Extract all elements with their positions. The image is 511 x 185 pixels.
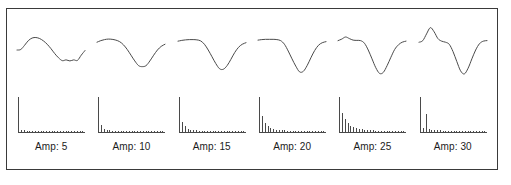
panel-label-amp-10: Amp: 10	[91, 136, 171, 153]
panel-amp-5: Amp: 5	[11, 9, 91, 169]
panel-amp-20: Amp: 20	[252, 9, 332, 169]
waveform-svg-amp-25	[335, 20, 409, 80]
spectrum-plot-amp-30	[413, 91, 493, 136]
waveform-trace	[338, 37, 406, 74]
waveform-plot-amp-15	[172, 9, 252, 91]
spectrum-plot-amp-15	[172, 91, 252, 136]
spectrum-plot-amp-25	[332, 91, 412, 136]
panel-amp-25: Amp: 25	[332, 9, 412, 169]
waveform-trace	[97, 39, 165, 67]
waveform-svg-amp-30	[416, 20, 490, 80]
panel-label-amp-20: Amp: 20	[252, 136, 332, 153]
waveform-trace	[17, 37, 85, 60]
panel-label-amp-15: Amp: 15	[172, 136, 252, 153]
waveform-svg-amp-15	[175, 20, 249, 80]
spectrum-svg-amp-25	[335, 94, 409, 136]
panel-label-amp-5: Amp: 5	[11, 136, 91, 153]
panel-label-amp-25: Amp: 25	[332, 136, 412, 153]
waveform-plot-amp-25	[332, 9, 412, 91]
spectrum-svg-amp-30	[416, 94, 490, 136]
panel-grid: Amp: 5 Amp: 10 Amp: 15	[7, 9, 497, 169]
panel-amp-30: Amp: 30	[413, 9, 493, 169]
waveform-plot-amp-20	[252, 9, 332, 91]
spectrum-plot-amp-10	[91, 91, 171, 136]
spectrum-svg-amp-15	[175, 94, 249, 136]
waveform-trace	[419, 28, 487, 74]
waveform-svg-amp-5	[14, 20, 88, 80]
spectrum-svg-amp-10	[94, 94, 168, 136]
figure-root: Amp: 5 Amp: 10 Amp: 15	[0, 0, 511, 185]
panel-amp-10: Amp: 10	[91, 9, 171, 169]
spectrum-plot-amp-20	[252, 91, 332, 136]
waveform-plot-amp-5	[11, 9, 91, 91]
waveform-svg-amp-20	[255, 20, 329, 80]
spectrum-svg-amp-20	[255, 94, 329, 136]
waveform-trace	[178, 40, 246, 70]
waveform-trace	[258, 39, 326, 72]
waveform-plot-amp-30	[413, 9, 493, 91]
spectrum-plot-amp-5	[11, 91, 91, 136]
panel-amp-15: Amp: 15	[172, 9, 252, 169]
figure-frame: Amp: 5 Amp: 10 Amp: 15	[6, 8, 498, 170]
panel-label-amp-30: Amp: 30	[413, 136, 493, 153]
spectrum-svg-amp-5	[14, 94, 88, 136]
waveform-svg-amp-10	[94, 20, 168, 80]
waveform-plot-amp-10	[91, 9, 171, 91]
